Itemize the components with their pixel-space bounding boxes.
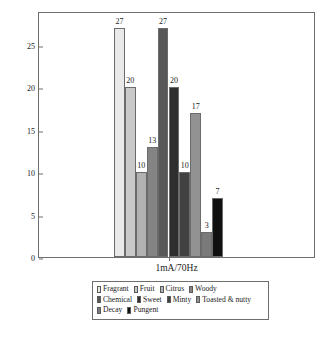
plot-area: 272010132720101737 0510152025	[38, 12, 315, 258]
y-axis-tick-mark	[39, 216, 43, 217]
bar-rect	[190, 113, 201, 257]
bar-citrus: 10	[136, 11, 147, 257]
legend-item-pungent[interactable]: Pungent	[127, 306, 158, 314]
x-axis-tick-mark	[169, 257, 170, 261]
legend-item-label: Chemical	[103, 296, 132, 304]
legend-item-label: Pungent	[133, 306, 158, 314]
legend-item-citrus[interactable]: Citrus	[160, 285, 185, 293]
y-axis-tick-label: 20	[27, 85, 35, 93]
y-axis-tick-mark	[39, 174, 43, 175]
bar-value-label: 27	[115, 18, 123, 26]
bar-chart-figure: Percentage 272010132720101737 0510152025…	[0, 0, 333, 337]
legend-item-label: Fruit	[140, 285, 155, 293]
bar-rect	[179, 172, 190, 257]
legend-item-label: Minty	[173, 296, 192, 304]
legend-swatch-icon	[167, 296, 171, 303]
x-axis-title: 1mA/70Hz	[38, 263, 315, 273]
legend-item-toasted-nutty[interactable]: Toasted & nutty	[196, 296, 251, 304]
bar-value-label: 17	[192, 103, 200, 111]
bar-rect	[147, 147, 158, 257]
legend-item-label: Fragrant	[103, 285, 129, 293]
legend-swatch-icon	[196, 296, 200, 303]
bar-value-label: 10	[137, 162, 145, 170]
bar-sweet: 20	[169, 11, 180, 257]
y-axis-tick-mark	[39, 259, 43, 260]
bar-woody: 13	[147, 11, 158, 257]
legend-item-label: Decay	[103, 306, 122, 314]
legend-item-minty[interactable]: Minty	[167, 296, 192, 304]
bar-decay: 3	[201, 11, 212, 257]
legend-swatch-icon	[160, 286, 164, 293]
bar-rect	[125, 87, 136, 257]
bar-value-label: 13	[148, 137, 156, 145]
bar-minty: 10	[179, 11, 190, 257]
legend-item-chemical[interactable]: Chemical	[97, 296, 132, 304]
legend-row: FragrantFruitCitrusWoody	[97, 284, 264, 295]
legend-item-label: Woody	[195, 285, 217, 293]
y-axis-tick-label: 25	[27, 43, 35, 51]
bar-value-label: 10	[181, 162, 189, 170]
y-axis-tick-mark	[39, 89, 43, 90]
legend-swatch-icon	[97, 286, 101, 293]
bar-chemical: 27	[158, 11, 169, 257]
bar-rect	[212, 198, 223, 257]
legend-item-sweet[interactable]: Sweet	[137, 296, 162, 304]
legend-swatch-icon	[97, 307, 101, 314]
bar-toasted-nutty: 17	[190, 11, 201, 257]
bar-value-label: 20	[170, 77, 178, 85]
y-axis-tick-label: 15	[27, 128, 35, 136]
legend-swatch-icon	[127, 307, 131, 314]
bar-value-label: 3	[205, 222, 209, 230]
bar-rect	[169, 87, 180, 257]
bar-value-label: 7	[216, 188, 220, 196]
legend-item-fruit[interactable]: Fruit	[134, 285, 155, 293]
y-axis-tick-mark	[39, 131, 43, 132]
bar-fruit: 20	[125, 11, 136, 257]
y-axis-tick-label: 0	[31, 255, 35, 263]
chart-legend: FragrantFruitCitrusWoodyChemicalSweetMin…	[92, 281, 269, 320]
bar-value-label: 20	[126, 77, 134, 85]
legend-swatch-icon	[137, 296, 141, 303]
bar-pungent: 7	[212, 11, 223, 257]
legend-item-label: Citrus	[166, 285, 185, 293]
legend-item-woody[interactable]: Woody	[189, 285, 217, 293]
legend-item-fragrant[interactable]: Fragrant	[97, 285, 129, 293]
legend-swatch-icon	[189, 286, 193, 293]
y-axis-tick-label: 10	[27, 170, 35, 178]
legend-item-decay[interactable]: Decay	[97, 306, 122, 314]
legend-item-label: Toasted & nutty	[202, 296, 251, 304]
legend-row: ChemicalSweetMintyToasted & nutty	[97, 295, 264, 306]
legend-swatch-icon	[134, 286, 138, 293]
bar-rect	[201, 232, 212, 257]
bar-value-label: 27	[159, 18, 167, 26]
bar-fragrant: 27	[114, 11, 125, 257]
y-axis-tick-mark	[39, 46, 43, 47]
legend-row: DecayPungent	[97, 305, 264, 316]
legend-item-label: Sweet	[143, 296, 162, 304]
y-axis-tick-label: 5	[31, 213, 35, 221]
legend-swatch-icon	[97, 296, 101, 303]
bars-layer: 272010132720101737	[39, 13, 314, 257]
bar-rect	[136, 172, 147, 257]
bar-rect	[114, 28, 125, 257]
bar-rect	[158, 28, 169, 257]
